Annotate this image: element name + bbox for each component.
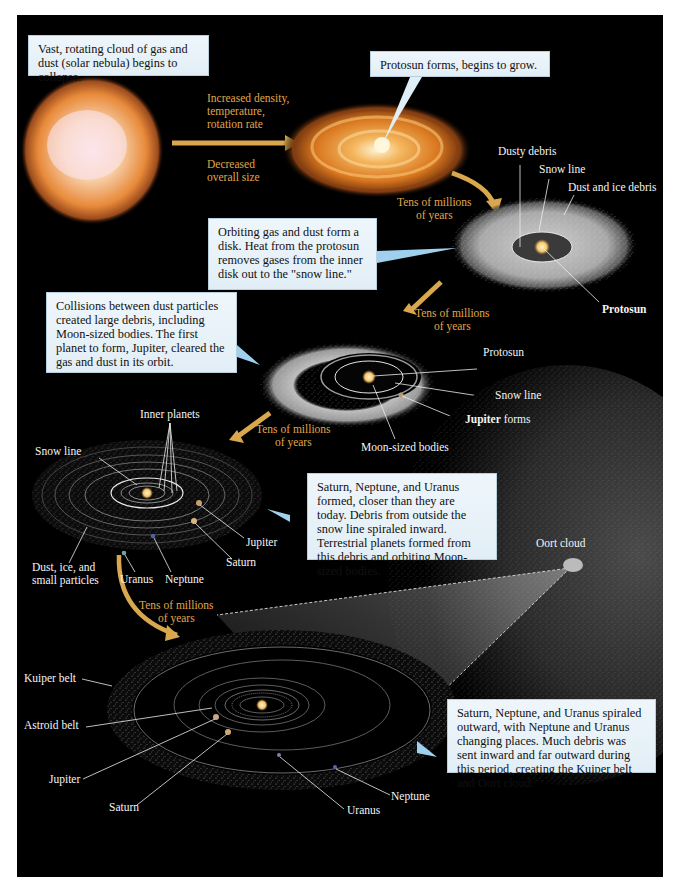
label-time-4: Tens of millions of years (139, 599, 214, 625)
label-dust-ice-debris: Dust and ice debris (568, 181, 656, 194)
label-snow-line-stage5: Snow line (35, 445, 81, 458)
callout-protosun-forms: Protosun forms, begins to grow. (370, 51, 550, 77)
label-dusty-debris: Dusty debris (498, 145, 556, 158)
label-saturn-stage6: Saturn (109, 801, 139, 814)
label-neptune-stage5: Neptune (165, 573, 204, 586)
label-protosun-stage4: Protosun (483, 346, 524, 359)
label-snow-line-stage3: Snow line (539, 163, 585, 176)
solar-nebula-image (20, 75, 164, 225)
label-kuiper-belt: Kuiper belt (24, 672, 76, 685)
label-uranus-stage5: Uranus (120, 573, 153, 586)
label-moon-sized-bodies: Moon-sized bodies (361, 441, 449, 454)
modern-solar-system-image (82, 630, 457, 809)
callout-collisions: Collisions between dust particles create… (46, 292, 237, 373)
label-neptune-stage6: Neptune (391, 790, 430, 803)
label-time-1: Tens of millions of years (397, 196, 472, 222)
label-time-3: Tens of millions of years (256, 423, 331, 449)
label-increased-density: Increased density, temperature, rotation… (207, 92, 289, 131)
callout-disk-forms: Orbiting gas and dust form a disk. Heat … (208, 218, 377, 290)
protosun-swirl-image (282, 102, 472, 198)
formation-diagram-panel: Vast, rotating cloud of gas and dust (so… (17, 15, 663, 877)
label-jupiter-forms: Jupiter forms (465, 413, 531, 426)
label-jupiter-stage6: Jupiter (49, 773, 80, 786)
label-oort-cloud: Oort cloud (536, 537, 586, 550)
label-dust-ice-particles: Dust, ice, and small particles (32, 561, 99, 587)
label-saturn-stage5: Saturn (226, 556, 256, 569)
label-asteroid-belt: Astroid belt (24, 719, 79, 732)
label-snow-line-stage4: Snow line (495, 389, 541, 402)
label-uranus-stage6: Uranus (347, 804, 380, 817)
callout-pointer (237, 345, 260, 365)
label-decreased-size: Decreased overall size (207, 158, 260, 184)
label-jupiter-stage5: Jupiter (246, 536, 277, 549)
callout-solar-nebula: Vast, rotating cloud of gas and dust (so… (28, 35, 209, 76)
callout-pointer (377, 248, 457, 263)
callout-pointer (267, 509, 290, 522)
label-protosun-stage3: Protosun (602, 303, 647, 316)
callout-planet-migration: Saturn, Neptune, and Uranus spiraled out… (447, 699, 656, 773)
callout-giant-planets-formed: Saturn, Neptune, and Uranus formed, clos… (307, 473, 497, 560)
label-time-2: Tens of millions of years (415, 307, 490, 333)
label-inner-planets: Inner planets (140, 408, 200, 421)
